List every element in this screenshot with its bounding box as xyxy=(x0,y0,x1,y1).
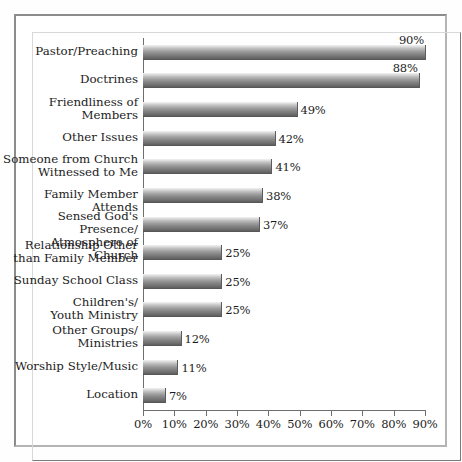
bar-row[interactable]: 25% xyxy=(143,302,425,317)
chart-figure: Pastor/PreachingDoctrinesFriendliness of… xyxy=(0,0,462,462)
bar-row[interactable]: 49% xyxy=(143,102,425,117)
axis-tick-label: 20% xyxy=(193,417,218,431)
bar[interactable] xyxy=(143,73,420,88)
category-label: Friendliness of Members xyxy=(3,96,138,122)
bar[interactable] xyxy=(143,331,182,346)
bar-row[interactable]: 7% xyxy=(143,388,425,403)
axis-tick xyxy=(331,411,332,416)
category-label: Other Issues xyxy=(3,131,138,144)
axis-tick xyxy=(300,411,301,416)
bar-value-label: 88% xyxy=(393,61,418,75)
axis-tick-label: 60% xyxy=(319,417,344,431)
bar-value-label: 41% xyxy=(275,160,300,174)
bar[interactable] xyxy=(143,217,260,232)
bar-value-label: 11% xyxy=(181,361,206,375)
bar[interactable] xyxy=(143,45,426,60)
bar[interactable] xyxy=(143,131,276,146)
bar-row[interactable]: 25% xyxy=(143,274,425,289)
bar-value-label: 90% xyxy=(399,33,424,47)
bar-row[interactable]: 37% xyxy=(143,217,425,232)
bar[interactable] xyxy=(143,360,178,375)
bar-row[interactable]: 38% xyxy=(143,188,425,203)
category-label: Pastor/Preaching xyxy=(3,45,138,58)
bar-value-label: 49% xyxy=(301,103,326,117)
bar[interactable] xyxy=(143,274,222,289)
bar[interactable] xyxy=(143,102,298,117)
category-label: Other Groups/ Ministries xyxy=(3,324,138,350)
bar-row[interactable]: 88% xyxy=(143,73,425,88)
category-axis-labels: Pastor/PreachingDoctrinesFriendliness of… xyxy=(0,38,138,410)
bar-value-label: 25% xyxy=(225,303,250,317)
category-label: Worship Style/Music xyxy=(3,360,138,373)
bar-row[interactable]: 90% xyxy=(143,45,425,60)
axis-tick-label: 70% xyxy=(350,417,375,431)
axis-tick-label: 30% xyxy=(225,417,250,431)
axis-tick-label: 50% xyxy=(287,417,312,431)
category-label: Doctrines xyxy=(3,73,138,86)
axis-tick-label: 10% xyxy=(162,417,187,431)
axis-tick xyxy=(143,411,144,416)
axis-tick-label: 0% xyxy=(134,417,152,431)
bar-row[interactable]: 41% xyxy=(143,159,425,174)
bar-value-label: 38% xyxy=(266,189,291,203)
bar-row[interactable]: 42% xyxy=(143,131,425,146)
bar[interactable] xyxy=(143,388,166,403)
category-label: Children's/ Youth Ministry xyxy=(3,296,138,322)
axis-tick xyxy=(425,411,426,416)
bar-value-label: 42% xyxy=(279,132,304,146)
bar[interactable] xyxy=(143,302,222,317)
bar-value-label: 12% xyxy=(185,332,210,346)
axis-tick xyxy=(394,411,395,416)
plot-area: 90%88%49%42%41%38%37%25%25%25%12%11%7% xyxy=(143,38,425,410)
bar-value-label: 25% xyxy=(225,246,250,260)
axis-tick-label: 80% xyxy=(381,417,406,431)
axis-tick xyxy=(174,411,175,416)
axis-tick-label: 40% xyxy=(256,417,281,431)
category-label: Sunday School Class xyxy=(3,274,138,287)
axis-tick xyxy=(237,411,238,416)
axis-tick xyxy=(206,411,207,416)
category-label: Relationship Other than Family Member xyxy=(3,239,138,265)
bar[interactable] xyxy=(143,159,272,174)
bar-row[interactable]: 12% xyxy=(143,331,425,346)
bar-row[interactable]: 11% xyxy=(143,360,425,375)
bar[interactable] xyxy=(143,245,222,260)
category-label: Someone from Church Witnessed to Me xyxy=(3,153,138,179)
category-label: Location xyxy=(3,388,138,401)
bar-value-label: 25% xyxy=(225,275,250,289)
bar-value-label: 7% xyxy=(169,389,187,403)
value-axis-line xyxy=(143,410,426,411)
axis-tick-label: 90% xyxy=(413,417,438,431)
bar-value-label: 37% xyxy=(263,218,288,232)
bar[interactable] xyxy=(143,188,263,203)
bar-row[interactable]: 25% xyxy=(143,245,425,260)
axis-tick xyxy=(268,411,269,416)
axis-tick xyxy=(362,411,363,416)
